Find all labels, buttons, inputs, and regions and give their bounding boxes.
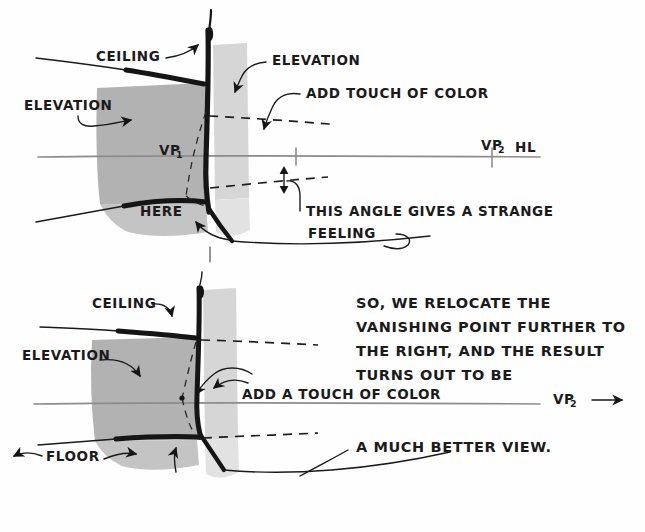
top-angle-arrow-up (280, 166, 289, 174)
bottom-right-panel-wash (203, 288, 238, 440)
bottom-floor-arrow-left (14, 453, 42, 456)
bottom-ceiling-edge (118, 331, 196, 338)
top-hl-label: HL (515, 139, 536, 155)
bottom-floor-label: FLOOR (46, 448, 100, 464)
bottom-note-line4: TURNS OUT TO BE (356, 367, 513, 383)
top-vp1-label-group: VP 1 (159, 142, 183, 160)
top-vp1-subscript: 1 (176, 149, 183, 160)
top-angle-leader-line (287, 181, 300, 211)
bottom-conclusion-leader (300, 450, 348, 476)
top-vp2-subscript: 2 (498, 144, 505, 155)
bottom-note-line1: SO, WE RELOCATE THE (356, 295, 551, 311)
bottom-left-wall-wash-lower (95, 440, 199, 470)
top-angle-note-line1: THIS ANGLE GIVES A STRANGE (306, 203, 554, 219)
sketch-page: CEILING ELEVATION ELEVATION ADD TOUCH OF… (0, 0, 645, 532)
bottom-add-color-label: ADD A TOUCH OF COLOR (242, 386, 441, 402)
bottom-floor-edge (116, 437, 198, 439)
top-elevation-right-label: ELEVATION (272, 52, 360, 68)
top-angle-note-line2: FEELING (308, 225, 376, 241)
top-ceiling-edge (126, 70, 204, 84)
bottom-ceiling-label: CEILING (92, 295, 156, 311)
bottom-ceiling-edge-extension (40, 327, 118, 331)
bottom-elevation-label: ELEVATION (22, 347, 110, 363)
bottom-drawing-group: CEILING ELEVATION FLOOR ADD A TOUCH OF C… (14, 272, 626, 478)
top-add-color-arrow (264, 94, 300, 130)
bottom-vertical-corner (197, 288, 200, 434)
top-here-label: HERE (140, 203, 183, 219)
top-angle-arrow-down (280, 186, 289, 194)
top-ceiling-label: CEILING (96, 48, 160, 64)
top-elevation-left-label: ELEVATION (24, 97, 112, 113)
bottom-baseline-curve (224, 452, 450, 472)
top-vertical-corner (206, 30, 209, 212)
bottom-floor-corner-dot (197, 434, 203, 440)
bottom-vanishing-point-dot (179, 395, 184, 400)
bottom-horizon-line (34, 403, 540, 404)
bottom-vp2-subscript: 2 (570, 398, 577, 409)
bottom-note-line3: THE RIGHT, AND THE RESULT (356, 343, 604, 359)
bottom-vp2-label-group: VP 2 (553, 391, 577, 409)
top-angle-note-curl (384, 234, 410, 249)
top-horizon-line (38, 156, 540, 157)
top-vp2-label-group: VP 2 (481, 137, 505, 155)
bottom-corner-blot (198, 286, 204, 299)
top-corner-blot (207, 27, 213, 41)
bottom-right-panel-wash-lower (205, 438, 239, 478)
bottom-note-line2: VANISHING POINT FURTHER TO (356, 319, 626, 335)
bottom-wash-group (91, 288, 239, 478)
top-right-panel-wash (213, 43, 249, 200)
top-drawing-group: CEILING ELEVATION ELEVATION ADD TOUCH OF… (24, 10, 554, 262)
perspective-sketch-canvas: CEILING ELEVATION ELEVATION ADD TOUCH OF… (0, 0, 645, 532)
top-left-wall-wash (96, 83, 207, 205)
top-add-color-label: ADD TOUCH OF COLOR (306, 85, 489, 101)
top-ceiling-arrow (166, 45, 198, 58)
top-right-panel-wash-lower (215, 198, 250, 236)
bottom-conclusion-label: A MUCH BETTER VIEW. (356, 439, 552, 455)
